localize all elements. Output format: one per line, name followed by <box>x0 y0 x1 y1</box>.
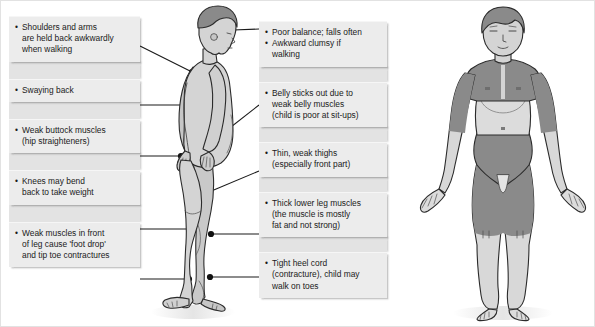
bullet-icon: • <box>15 125 22 136</box>
callout-separator <box>9 62 140 79</box>
right-upper-arm-shaded <box>531 73 557 133</box>
callout-belly-sticks-out[interactable]: • Belly sticks out due to weak belly mus… <box>259 82 387 128</box>
bullet-icon: • <box>265 258 272 269</box>
sternum <box>501 65 505 99</box>
near-hand <box>200 152 214 171</box>
right-hand <box>561 189 586 212</box>
bullet-label: Thick lower leg muscles (the muscle is m… <box>272 198 381 232</box>
callout-separator <box>259 67 387 82</box>
bullet-icon: • <box>15 176 22 187</box>
callout-tight-heel-cord[interactable]: • Tight heel cord (contracture), child m… <box>259 252 387 298</box>
bullet-label: Weak muscles in front of leg cause 'foot… <box>22 228 134 262</box>
callout-weak-front-leg-muscles[interactable]: • Weak muscles in front of leg cause 'fo… <box>9 222 140 268</box>
front-view-figure <box>419 5 587 323</box>
bullet-item: • Knees may bend back to take weight <box>15 176 134 198</box>
callout-separator <box>9 102 140 119</box>
bullet-label: Weak buttock muscles (hip straighteners) <box>22 125 134 147</box>
left-hand <box>420 189 445 212</box>
callout-separator <box>259 237 387 252</box>
right-nipple <box>516 87 521 90</box>
callout-separator <box>259 127 387 142</box>
ear <box>211 34 218 41</box>
callout-thick-lower-leg-muscles[interactable]: • Thick lower leg muscles (the muscle is… <box>259 192 387 238</box>
left-upper-arm-shaded <box>449 73 475 133</box>
bullet-item: • Awkward clumsy if walking <box>265 38 381 60</box>
bullet-item: • Weak muscles in front of leg cause 'fo… <box>15 228 134 262</box>
callout-separator <box>9 205 140 222</box>
diagram-canvas: • Shoulders and arms are held back awkwa… <box>0 0 595 327</box>
right-callout-column: • Poor balance; falls often • Awkward cl… <box>259 21 387 298</box>
callout-separator <box>9 153 140 170</box>
bullet-icon: • <box>15 85 22 96</box>
bullet-item: • Weak buttock muscles (hip straightener… <box>15 125 134 147</box>
bullet-icon: • <box>15 228 22 239</box>
bullet-icon: • <box>15 22 22 33</box>
bullet-item: • Thin, weak thighs (especially front pa… <box>265 148 381 170</box>
bullet-item: • Belly sticks out due to weak belly mus… <box>265 88 381 122</box>
bullet-item: • Tight heel cord (contracture), child m… <box>265 258 381 292</box>
ground-shadow-front <box>453 306 553 320</box>
bullet-label: Belly sticks out due to weak belly muscl… <box>272 88 381 122</box>
bullet-icon: • <box>265 38 272 49</box>
callout-shoulders-arms[interactable]: • Shoulders and arms are held back awkwa… <box>9 16 140 62</box>
bullet-item: • Thick lower leg muscles (the muscle is… <box>265 198 381 232</box>
callout-separator <box>259 177 387 192</box>
bullet-label: Shoulders and arms are held back awkward… <box>22 22 134 56</box>
callout-knees-bend-back[interactable]: • Knees may bend back to take weight <box>9 170 140 204</box>
callout-weak-buttock-muscles[interactable]: • Weak buttock muscles (hip straightener… <box>9 119 140 153</box>
callout-swaying-back[interactable]: • Swaying back <box>9 79 140 102</box>
bullet-item: • Swaying back <box>15 85 134 96</box>
left-callout-column: • Shoulders and arms are held back awkwa… <box>9 16 140 267</box>
bullet-label: Thin, weak thighs (especially front part… <box>272 148 381 170</box>
bullet-item: • Poor balance; falls often <box>265 27 381 38</box>
bullet-label: Awkward clumsy if walking <box>272 38 381 60</box>
bullet-icon: • <box>265 148 272 159</box>
callout-thin-weak-thighs[interactable]: • Thin, weak thighs (especially front pa… <box>259 142 387 176</box>
bullet-icon: • <box>265 198 272 209</box>
bullet-label: Swaying back <box>22 85 134 96</box>
bullet-icon: • <box>265 88 272 99</box>
callout-poor-balance[interactable]: • Poor balance; falls often • Awkward cl… <box>259 21 387 67</box>
navel <box>501 127 505 130</box>
bullet-label: Poor balance; falls often <box>272 27 381 38</box>
bullet-item: • Shoulders and arms are held back awkwa… <box>15 22 134 56</box>
bullet-label: Tight heel cord (contracture), child may… <box>272 258 381 292</box>
side-view-figure <box>141 5 251 323</box>
left-nipple <box>485 87 490 90</box>
bullet-label: Knees may bend back to take weight <box>22 176 134 198</box>
bullet-icon: • <box>265 27 272 38</box>
